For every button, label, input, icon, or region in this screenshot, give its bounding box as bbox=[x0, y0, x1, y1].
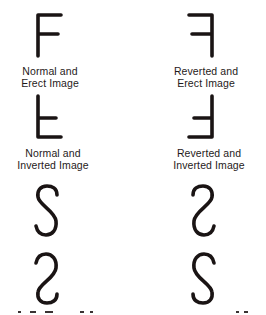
caption-reverted-inverted: Reverted and Inverted Image bbox=[163, 147, 255, 171]
letter-f-normal-erect bbox=[34, 12, 64, 58]
caption-normal-inverted: Normal and Inverted Image bbox=[8, 147, 98, 171]
letter-s-reverted-inverted bbox=[188, 251, 218, 305]
letter-f-normal-inverted bbox=[34, 94, 64, 140]
letter-s-normal-inverted bbox=[32, 251, 62, 305]
truncated-text-line bbox=[0, 309, 266, 315]
letter-s-reverted-erect bbox=[188, 184, 218, 238]
caption-reverted-erect: Reverted and Erect Image bbox=[163, 65, 249, 89]
letter-s-normal-erect bbox=[32, 184, 62, 238]
letter-f-reverted-erect bbox=[186, 12, 216, 58]
caption-normal-erect: Normal and Erect Image bbox=[10, 65, 90, 89]
letter-f-reverted-inverted bbox=[186, 94, 216, 140]
